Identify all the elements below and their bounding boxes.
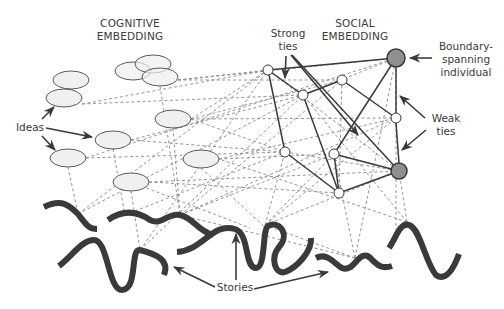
story-curve (59, 240, 165, 290)
person-node (298, 90, 308, 100)
weak-ties-arrow (402, 130, 426, 150)
story-curve (108, 213, 213, 235)
person-node (337, 75, 347, 85)
idea-ellipse (113, 173, 149, 191)
embedding-diagram (0, 0, 504, 309)
weak-ties-arrow (400, 96, 425, 118)
boundary-spanning-node (391, 163, 407, 179)
person-node (391, 113, 401, 123)
idea-ellipse (46, 89, 82, 107)
cognitive-embedding-label: COGNITIVE EMBEDDING (95, 17, 165, 43)
boundary-spanning-node (387, 49, 405, 67)
social-embedding-label: SOCIAL EMBEDDING (320, 17, 390, 43)
idea-ellipse (183, 150, 219, 168)
stories-label: Stories (214, 281, 256, 294)
ideas-arrow (42, 136, 55, 150)
ideas-arrow (46, 128, 92, 137)
story-curve (44, 203, 97, 229)
stories-arrow (254, 272, 328, 289)
person-node (334, 188, 344, 198)
ideas-label: Ideas (14, 121, 46, 134)
person-node (280, 147, 290, 157)
idea-ellipse (53, 71, 89, 89)
story-curve (177, 225, 311, 273)
idea-ellipse (50, 149, 86, 167)
idea-ellipse (142, 68, 178, 86)
idea-ellipse (155, 110, 191, 128)
idea-ellipse (95, 131, 131, 149)
annotation-arrows (42, 55, 432, 289)
story-curve (389, 225, 459, 277)
story-curves (44, 203, 459, 290)
boundary-spanning-label: Boundary- spanning individual (431, 40, 501, 79)
ideas-arrow (42, 107, 54, 119)
person-node (263, 65, 273, 75)
strong-ties-arrow (285, 56, 286, 78)
weak-ties-label: Weak ties (426, 112, 466, 138)
strong-ties-label: Strong ties (264, 27, 312, 53)
person-node (329, 149, 339, 159)
stories-arrow (174, 267, 215, 287)
